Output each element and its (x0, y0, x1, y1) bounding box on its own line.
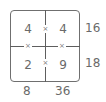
multiply-icon-top-row: × (42, 25, 50, 33)
multiply-icon-right-column: × (58, 43, 66, 51)
column-product-left: 8 (23, 85, 31, 97)
cell-top-left: 4 (11, 11, 45, 46)
column-product-right: 36 (55, 85, 70, 97)
cell-bottom-left: 2 (11, 47, 45, 82)
multiply-icon-bottom-row: × (42, 59, 50, 67)
multiplication-grid: 4 4 2 9 × × × × (10, 10, 80, 82)
multiply-icon-left-column: × (24, 43, 32, 51)
row-product-bottom: 18 (85, 57, 100, 69)
cell-top-right: 4 (46, 11, 80, 46)
row-product-top: 16 (85, 22, 100, 34)
cell-bottom-right: 9 (46, 47, 80, 82)
